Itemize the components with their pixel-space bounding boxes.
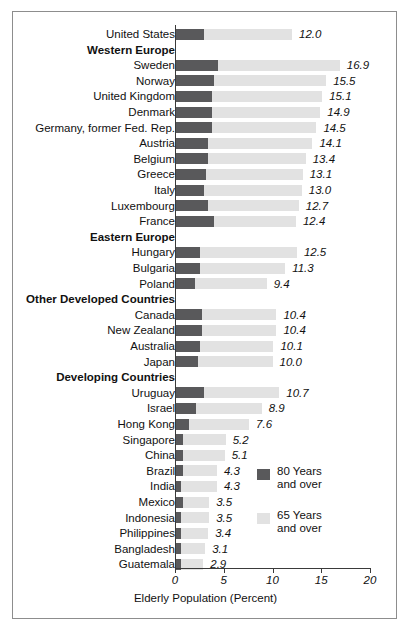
legend-item: 65 Years and over — [257, 511, 377, 541]
legend-item: 80 Years and over — [257, 467, 377, 497]
chart-legend: 80 Years and over65 Years and over — [257, 467, 377, 555]
bar-value-label: 3.4 — [215, 525, 231, 541]
bar-value-label: 11.3 — [292, 260, 314, 276]
bar-segment-80-plus — [175, 341, 200, 352]
bar-segment-80-plus — [175, 200, 208, 211]
bar-value-label: 5.2 — [233, 432, 249, 448]
legend-label: 80 Years and over — [277, 465, 322, 491]
country-label: Israel — [147, 400, 175, 416]
bar-segment-80-plus — [175, 419, 189, 430]
bar-segment-80-plus — [175, 91, 212, 102]
group-label: Eastern Europe — [90, 229, 175, 245]
x-axis-tick — [321, 568, 322, 573]
bar-segment-80-plus — [175, 138, 208, 149]
group-label: Other Developed Countries — [26, 291, 175, 307]
bar-value-label: 12.0 — [299, 26, 321, 42]
stacked-bar — [175, 169, 303, 180]
country-label: Belgium — [133, 151, 175, 167]
bar-value-label: 9.4 — [274, 276, 290, 292]
stacked-bar — [175, 153, 306, 164]
country-label: China — [145, 447, 175, 463]
country-label: Philippines — [119, 525, 175, 541]
bar-segment-80-plus — [175, 434, 183, 445]
country-label: Hong Kong — [117, 416, 175, 432]
country-label: Norway — [136, 73, 175, 89]
country-label: United States — [106, 26, 175, 42]
bar-segment-80-plus — [175, 153, 208, 164]
stacked-bar — [175, 75, 326, 86]
bar-value-label: 3.5 — [216, 494, 232, 510]
chart-bar-row: Norway15.5 — [13, 73, 398, 89]
x-axis-title: Elderly Population (Percent) — [13, 592, 398, 604]
country-label: Indonesia — [125, 510, 175, 526]
country-label: Greece — [137, 166, 175, 182]
bar-value-label: 12.5 — [304, 244, 326, 260]
chart-bar-row: United Kingdom15.1 — [13, 88, 398, 104]
country-label: United Kingdom — [93, 88, 175, 104]
stacked-bar — [175, 497, 209, 508]
bar-segment-80-plus — [175, 60, 218, 71]
bar-value-label: 4.3 — [224, 478, 240, 494]
bar-value-label: 13.4 — [313, 151, 335, 167]
stacked-bar — [175, 107, 320, 118]
x-axis-tick — [273, 568, 274, 573]
bar-segment-80-plus — [175, 122, 212, 133]
stacked-bar — [175, 138, 312, 149]
country-label: Germany, former Fed. Rep. — [35, 120, 175, 136]
country-label: France — [139, 213, 175, 229]
chart-bar-row: Sweden16.9 — [13, 57, 398, 73]
stacked-bar — [175, 387, 279, 398]
x-axis-tick-label: 15 — [315, 574, 328, 586]
chart-bar-row: Denmark14.9 — [13, 104, 398, 120]
chart-bar-row: Poland9.4 — [13, 276, 398, 292]
bar-segment-80-plus — [175, 247, 200, 258]
bar-segment-80-plus — [175, 403, 196, 414]
bar-segment-80-plus — [175, 450, 183, 461]
chart-bar-row: Australia10.1 — [13, 338, 398, 354]
stacked-bar — [175, 543, 205, 554]
stacked-bar — [175, 403, 262, 414]
bar-segment-80-plus — [175, 29, 204, 40]
chart-bar-row: Italy13.0 — [13, 182, 398, 198]
country-label: India — [150, 478, 175, 494]
bar-segment-80-plus — [175, 387, 204, 398]
legend-label: 65 Years and over — [277, 509, 322, 535]
chart-bar-row: Austria14.1 — [13, 135, 398, 151]
country-label: Canada — [135, 307, 175, 323]
chart-group-row: Developing Countries — [13, 369, 398, 385]
x-axis-tick-label: 10 — [266, 574, 279, 586]
chart-bar-row: Hong Kong7.6 — [13, 416, 398, 432]
chart-bar-row: Singapore5.2 — [13, 432, 398, 448]
bar-segment-80-plus — [175, 465, 183, 476]
group-label: Western Europe — [87, 42, 175, 58]
stacked-bar — [175, 216, 296, 227]
bar-value-label: 14.5 — [323, 120, 345, 136]
chart-bar-row: Guatemala2.9 — [13, 556, 398, 572]
bar-value-label: 10.1 — [280, 338, 302, 354]
bar-value-label: 14.1 — [319, 135, 341, 151]
chart-bar-row: France12.4 — [13, 213, 398, 229]
chart-group-row: Western Europe — [13, 42, 398, 58]
x-axis-tick — [175, 568, 176, 573]
bar-segment-80-plus — [175, 185, 204, 196]
bar-segment-80-plus — [175, 309, 202, 320]
chart-group-row: Eastern Europe — [13, 229, 398, 245]
bar-value-label: 3.5 — [216, 510, 232, 526]
x-axis-tick-label: 0 — [172, 574, 178, 586]
stacked-bar — [175, 465, 217, 476]
bar-value-label: 7.6 — [256, 416, 272, 432]
bar-value-label: 10.7 — [286, 385, 308, 401]
country-label: Guatemala — [119, 556, 175, 572]
stacked-bar — [175, 29, 292, 40]
stacked-bar — [175, 278, 267, 289]
bar-segment-80-plus — [175, 356, 198, 367]
stacked-bar — [175, 247, 297, 258]
x-axis-tick — [224, 568, 225, 573]
bar-value-label: 10.4 — [283, 307, 305, 323]
stacked-bar — [175, 200, 299, 211]
bar-value-label: 12.7 — [306, 198, 328, 214]
bar-segment-80-plus — [175, 107, 212, 118]
stacked-bar — [175, 434, 226, 445]
group-label: Developing Countries — [56, 369, 175, 385]
country-label: Brazil — [146, 463, 175, 479]
